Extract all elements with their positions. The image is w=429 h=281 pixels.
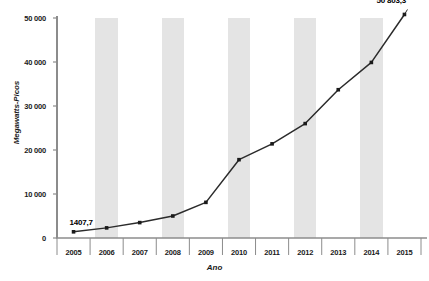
data-point-marker bbox=[270, 142, 274, 146]
chart-container: Megawatts-Picos Ano 010 00020 00030 0004… bbox=[0, 0, 429, 281]
data-point-marker bbox=[105, 226, 109, 230]
data-point-marker bbox=[303, 122, 307, 126]
data-point-marker bbox=[237, 158, 241, 162]
data-point-marker bbox=[336, 88, 340, 92]
data-point-label: 50 803,3 bbox=[376, 0, 406, 5]
data-point-marker bbox=[204, 201, 208, 205]
data-point-marker bbox=[171, 214, 175, 218]
data-point-label: 1407,7 bbox=[70, 218, 93, 227]
data-point-marker bbox=[72, 230, 76, 234]
plot-area bbox=[0, 0, 429, 281]
series-line bbox=[74, 14, 405, 231]
data-point-marker bbox=[138, 221, 142, 225]
data-point-marker bbox=[370, 61, 374, 65]
